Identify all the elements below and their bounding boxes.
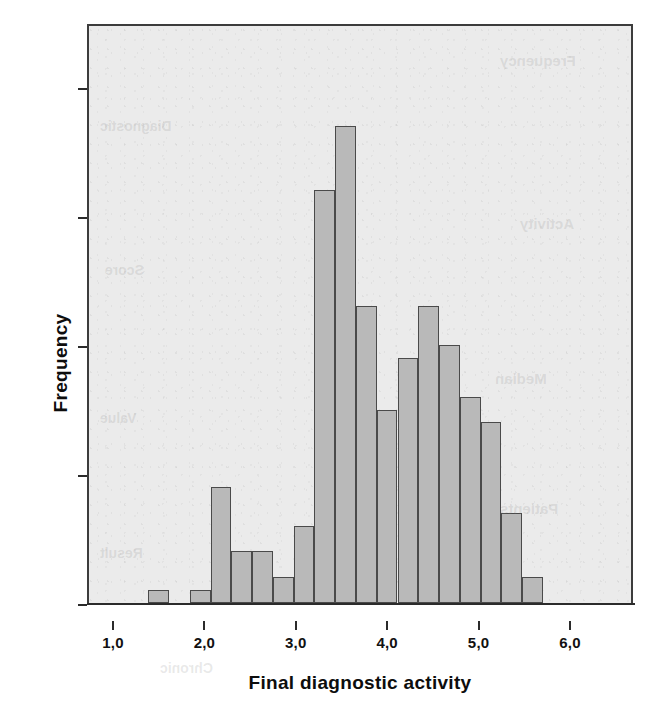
histogram-bar [501, 513, 522, 603]
x-axis-tick-label: 5,0 [468, 634, 489, 651]
x-axis-tick-label: 3,0 [285, 634, 306, 651]
x-axis-tick [478, 621, 480, 630]
y-axis-tick [78, 604, 87, 606]
histogram-bar [460, 397, 481, 603]
y-axis-tick [78, 475, 87, 477]
histogram-bar [148, 590, 169, 603]
x-axis-tick-label: 1,0 [102, 634, 123, 651]
histogram-bar [211, 487, 232, 603]
histogram-bar [294, 526, 315, 603]
x-axis-tick [295, 621, 297, 630]
histogram-bar [522, 577, 543, 603]
histogram-bar [356, 306, 377, 603]
histogram-bar [398, 358, 419, 603]
histogram-bar [314, 190, 335, 603]
x-axis-tick-label: 4,0 [376, 634, 397, 651]
histogram-bar [335, 126, 356, 603]
histogram-bar [418, 306, 439, 603]
y-axis-tick [78, 217, 87, 219]
histogram-bar [439, 345, 460, 603]
x-axis-title: Final diagnostic activity [87, 672, 633, 694]
histogram-bar [252, 551, 273, 603]
x-axis-ticks [0, 621, 657, 633]
histogram-figure: 0,010,020,030,040,0 1,02,03,04,05,06,0 F… [0, 0, 657, 725]
histogram-bar [377, 410, 398, 604]
histogram-bar [190, 590, 211, 603]
x-axis-tick [203, 621, 205, 630]
x-axis-tick [112, 621, 114, 630]
histogram-bar [231, 551, 252, 603]
histogram-bar [481, 422, 502, 603]
histogram-bar [273, 577, 294, 603]
x-axis-tick-label: 6,0 [559, 634, 580, 651]
y-axis-tick [78, 88, 87, 90]
y-axis-title: Frequency [50, 313, 72, 412]
x-axis-tick [386, 621, 388, 630]
y-axis-tick [78, 346, 87, 348]
x-axis-tick [569, 621, 571, 630]
x-axis-tick-label: 2,0 [194, 634, 215, 651]
x-axis-line [87, 603, 635, 605]
plot-area [87, 24, 633, 605]
